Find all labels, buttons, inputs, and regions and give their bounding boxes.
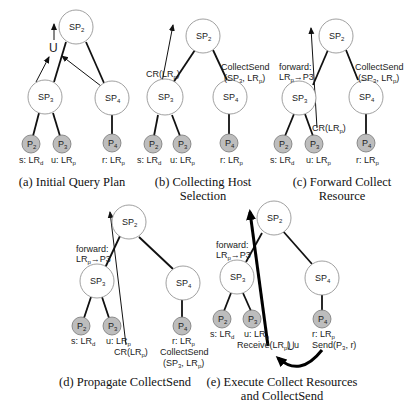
caption-e-line2: and CollectSend: [241, 389, 324, 403]
caption-d: (d) Propagate CollectSend: [59, 375, 192, 389]
cr-label: CR(LRp): [312, 123, 346, 134]
leaf-label-p2: s: LRd: [19, 155, 43, 166]
edge-sp3-p2: [154, 115, 158, 136]
arrow-sp3-to-union: [36, 57, 49, 82]
edge-sp3-p2: [285, 114, 294, 136]
edge-sp3-p2: [84, 297, 91, 318]
distributed-query-diagram: U SP2 SP3 SP4 P2 P3 P4 s: LRd u: LRp r: …: [0, 0, 416, 409]
edge-sp3-p3: [243, 293, 251, 311]
caption-c-line1: (c) Forward Collect: [293, 175, 392, 189]
leaf-label-p4: r: LRp: [172, 336, 196, 347]
collect-send-label-1: CollectSend: [160, 347, 209, 357]
forward-label-2: LRp→P3: [216, 250, 251, 261]
leaf-label-p2: s: LRd: [210, 329, 234, 340]
cr-label: CR(LRp): [114, 347, 148, 358]
arrow-send-to-receive: [278, 350, 322, 366]
union-symbol: U: [49, 41, 58, 55]
forward-label-2: LRp→P3: [76, 254, 111, 265]
cr-label: CR(LRp): [146, 69, 180, 80]
edge-sp3-p2: [33, 113, 39, 136]
caption-e-line1: (e) Execute Collect Resources: [207, 375, 358, 389]
leaf-label-p3: u: LRp: [306, 155, 332, 166]
edge-sp3-p3: [102, 297, 109, 318]
edge-sp3-p3: [53, 113, 60, 136]
edge-sp2-sp3: [313, 50, 328, 85]
collect-send-label-1: CollectSend: [355, 62, 404, 72]
collect-send-label-2: (SP3, LRp): [358, 73, 399, 84]
caption-a: (a) Initial Query Plan: [19, 175, 126, 189]
panel-e-execute-collect-resources: SP2 SP3 SP4 P2 P3 P4 s: LRd u: LRp r: LR…: [207, 201, 358, 403]
leaf-label-p2: s: LRd: [270, 155, 294, 166]
collect-send-label-1: CollectSend: [221, 62, 270, 72]
panel-c-forward-collect-resource: SP2 SP3 SP4 P2 P3 P4 s: LRd u: LRp r: LR…: [270, 19, 404, 203]
forward-label-1: forward:: [76, 244, 109, 254]
forward-label-2: LRp→P3: [279, 72, 314, 83]
caption-b-line2: Selection: [180, 189, 227, 203]
edge-sp3-p3: [172, 115, 180, 136]
leaf-label-p4: r: LRp: [356, 155, 380, 166]
receive-label: Receive(LRp): [237, 340, 290, 351]
forward-label-1: forward:: [216, 240, 249, 250]
collect-send-label-2: (SP3, LRp): [163, 358, 204, 369]
panel-b-collecting-host-selection: SP2 SP3 SP4 P2 P3 P4 s: LRd u: LRp r: LR…: [137, 19, 270, 203]
leaf-label-p4: r: LRp: [102, 155, 126, 166]
panel-a-initial-query-plan: U SP2 SP3 SP4 P2 P3 P4 s: LRd u: LRp r: …: [19, 10, 129, 189]
arrow-sp4-to-union: [62, 56, 101, 86]
collect-send-label-2: (SP3, LRp): [224, 73, 265, 84]
caption-c-line2: Resource: [319, 189, 366, 203]
edge-sp2-sp4: [139, 237, 173, 269]
forward-label-1: forward:: [279, 62, 312, 72]
edge-sp2-sp4: [282, 230, 312, 264]
leaf-label-p4: r: LRp: [220, 155, 244, 166]
caption-b-line1: (b) Collecting Host: [155, 175, 252, 189]
edge-sp3-p2: [224, 293, 231, 311]
leaf-label-p2: s: LRd: [71, 336, 95, 347]
panel-d-propagate-collectsend: SP2 SP3 SP4 P2 P3 P4 s: LRd u: LRp CR(LR…: [59, 205, 208, 389]
leaf-label-p3: u: LRp: [106, 336, 132, 347]
leaf-label-p3: u: LRp: [51, 155, 77, 166]
send-label: Send(P3, r): [312, 340, 356, 351]
leaf-label-p4: r: LRp: [312, 329, 336, 340]
union-u-label: ⋃u: [287, 340, 299, 350]
leaf-label-p3: u: LRp: [170, 155, 196, 166]
leaf-label-p2: s: LRd: [137, 155, 161, 166]
